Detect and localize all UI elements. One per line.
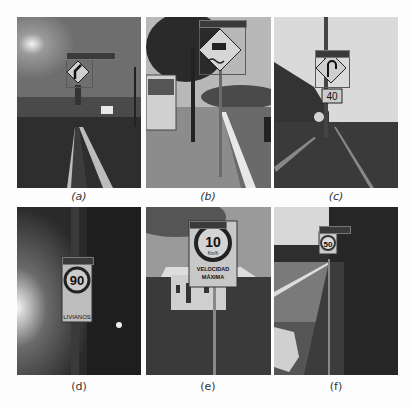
detection-box — [199, 27, 246, 75]
speed-value: 10 — [205, 234, 221, 250]
detection-label — [319, 226, 351, 234]
panel-e: 10 Km/h VELOCIDAD MÁXIMA — [146, 207, 271, 375]
scene-a-image — [17, 17, 141, 188]
sign-text-1: VELOCIDAD — [197, 266, 229, 272]
detection-label — [189, 221, 227, 229]
panel-b — [146, 17, 271, 188]
scene-e-image: 10 Km/h VELOCIDAD MÁXIMA — [146, 207, 271, 375]
panel-a — [17, 17, 141, 188]
speed-value: 90 — [70, 273, 84, 288]
panel-d: 90 LIVIANOS — [17, 207, 141, 375]
speed-unit: Km/h — [208, 251, 219, 256]
detection-label — [62, 257, 94, 265]
scene-c-image: 40 — [274, 17, 398, 188]
caption-f: (f) — [274, 380, 398, 393]
sign-text: LIVIANOS — [63, 314, 91, 320]
detection-label — [66, 52, 116, 60]
caption-a: (a) — [17, 190, 141, 203]
sign-text-2: MÁXIMA — [202, 274, 224, 280]
scene-d-image: 90 LIVIANOS — [17, 207, 141, 375]
detection-label — [315, 50, 350, 58]
caption-b: (b) — [146, 190, 270, 203]
caption-e: (e) — [146, 380, 270, 393]
caption-d: (d) — [17, 380, 141, 393]
caption-c: (c) — [274, 190, 398, 203]
detection-box — [66, 59, 93, 88]
detection-label — [199, 20, 247, 28]
speed-value: 50 — [324, 240, 333, 249]
panel-f: 50 — [274, 207, 398, 375]
speed-value: 40 — [326, 91, 338, 102]
panel-c: 40 — [274, 17, 398, 188]
